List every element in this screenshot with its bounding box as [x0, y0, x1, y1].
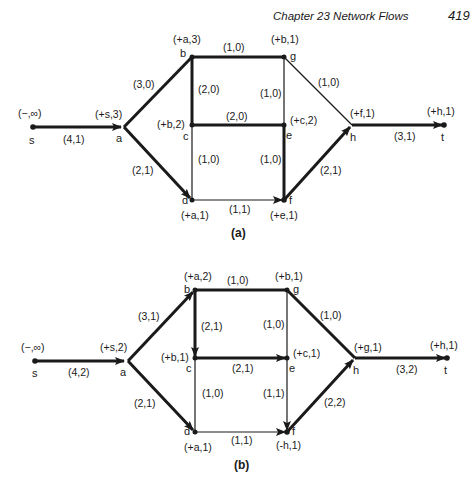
node-a-s [30, 124, 36, 130]
node-label-b-d: (+a,1) [184, 441, 212, 453]
node-a-b [190, 55, 195, 60]
node-label-a-t: (+h,1) [427, 105, 455, 117]
node-name-b-t: t [444, 364, 447, 376]
node-label-a-d: (+a,1) [181, 209, 209, 221]
node-name-a-e: e [286, 129, 292, 141]
node-name-b-b: b [184, 283, 190, 295]
edge-label-b-b-g: (1,0) [227, 274, 249, 286]
node-label-a-f: (+e,1) [270, 209, 298, 221]
edge-label-b-e-f: (1,1) [263, 387, 285, 399]
edges-a [33, 57, 442, 200]
edge-label-a-a-d: (2,1) [132, 164, 154, 176]
diagram-a: s a b g c e d f h t (−,∞) (+s,3) (+a,3) … [18, 33, 455, 240]
node-name-b-e: e [289, 362, 295, 374]
edge-label-b-a-d: (2,1) [134, 397, 156, 409]
node-label-a-e: (+c,2) [290, 114, 317, 126]
node-b-d [193, 430, 198, 435]
node-name-b-d: d [184, 425, 190, 437]
edge-label-b-g-e: (1,0) [263, 318, 285, 330]
node-name-a-t: t [441, 131, 444, 143]
edge-label-a-s-a: (4,1) [63, 133, 85, 145]
node-label-a-g: (+b,1) [271, 33, 299, 45]
edge-label-a-b-c: (2,0) [198, 83, 220, 95]
node-b-g [285, 288, 290, 293]
node-name-a-c: c [183, 130, 189, 142]
node-label-b-s: (−,∞) [21, 341, 45, 353]
node-b-e [285, 356, 290, 361]
node-label-b-e: (+c,1) [293, 347, 320, 359]
node-name-a-s: s [29, 134, 35, 146]
edge-label-b-s-a: (4,2) [68, 366, 90, 378]
edge-label-a-g-e: (1,0) [260, 87, 282, 99]
node-b-c [193, 356, 198, 361]
node-name-b-f: f [292, 425, 296, 437]
edge-label-a-e-f: (1,0) [260, 153, 282, 165]
edge-label-a-a-b: (3,0) [133, 78, 155, 90]
node-label-b-a: (+s,2) [100, 341, 127, 353]
edge-a-a-b [124, 57, 192, 127]
edge-label-b-h-t: (3,2) [396, 363, 418, 375]
node-b-t [444, 355, 450, 361]
node-name-a-g: g [290, 50, 296, 62]
node-a-c [190, 123, 195, 128]
node-name-a-a: a [116, 132, 123, 144]
node-name-b-a: a [120, 366, 127, 378]
edge-label-a-g-h: (1,0) [318, 76, 340, 88]
node-label-a-a: (+s,3) [95, 108, 122, 120]
edge-label-a-d-f: (1,1) [229, 203, 251, 215]
node-label-b-t: (+h,1) [430, 339, 458, 351]
node-name-a-b: b [180, 47, 186, 59]
node-label-b-h: (+g,1) [354, 341, 382, 353]
node-name-b-h: h [353, 364, 359, 376]
edge-label-b-c-d: (1,0) [202, 387, 224, 399]
edge-label-a-h-t: (3,1) [394, 130, 416, 142]
node-a-f [281, 197, 287, 203]
edge-label-a-c-d: (1,0) [198, 153, 220, 165]
nodes-a [30, 55, 447, 203]
node-label-a-s: (−,∞) [18, 107, 42, 119]
edge-label-b-d-f: (1,1) [231, 434, 253, 446]
node-name-b-g: g [293, 283, 299, 295]
node-name-a-h: h [350, 131, 356, 143]
node-a-d [190, 198, 195, 203]
node-label-b-c: (+b,1) [161, 351, 189, 363]
edge-a-a-d [124, 127, 190, 198]
edges-b [35, 290, 445, 432]
node-name-a-d: d [182, 194, 188, 206]
node-label-b-f: (-h,1) [276, 439, 301, 451]
node-label-b-g: (+b,1) [275, 270, 303, 282]
node-name-b-c: c [186, 362, 192, 374]
edge-label-b-g-h: (1,0) [320, 309, 342, 321]
edge-label-a-f-h: (2,1) [320, 164, 342, 176]
node-a-t [441, 122, 447, 128]
node-a-e [282, 123, 287, 128]
node-label-a-c: (+b,2) [157, 118, 185, 130]
node-b-s [32, 358, 38, 364]
node-b-f [284, 429, 290, 435]
caption-a: (a) [231, 226, 246, 240]
edge-label-b-c-e: (2,1) [232, 362, 254, 374]
node-a-g [282, 55, 287, 60]
node-label-a-h: (+f,1) [350, 107, 375, 119]
edge-b-a-d [128, 361, 193, 430]
node-label-b-b: (+a,2) [184, 270, 212, 282]
caption-b: (b) [234, 458, 249, 472]
edge-label-b-f-h: (2,2) [324, 396, 346, 408]
node-name-a-f: f [289, 194, 293, 206]
node-label-a-b: (+a,3) [173, 33, 201, 45]
edge-label-a-b-g: (1,0) [223, 41, 245, 53]
edge-label-a-c-e: (2,0) [226, 110, 248, 122]
edge-label-b-b-c: (2,1) [201, 320, 223, 332]
edge-label-b-a-b: (3,1) [138, 310, 160, 322]
node-b-b [193, 288, 198, 293]
diagram-b: s a b g c e d f h t (−,∞) (+s,2) (+a,2) … [21, 270, 458, 472]
node-name-b-s: s [32, 367, 38, 379]
network-flow-figure: s a b g c e d f h t (−,∞) (+s,3) (+a,3) … [0, 0, 474, 482]
